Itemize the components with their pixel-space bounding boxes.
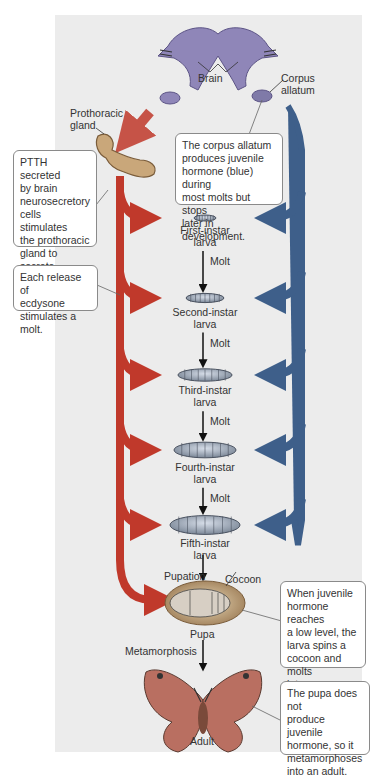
molt-label: Molt	[210, 492, 230, 504]
corpus-allatum-label-line: allatum	[281, 84, 315, 96]
ecdysone-bar	[120, 176, 152, 600]
stage-sub: larva	[150, 396, 260, 408]
metamorphosis-label: Metamorphosis	[125, 645, 197, 657]
callout-line: PTTH secreted	[20, 156, 90, 182]
callout-low-jh: When juvenile hormone reaches a low leve…	[280, 581, 366, 668]
callout-ptth: PTTH secreted by brain neurosecretory ce…	[13, 150, 97, 247]
adult-label: Adult	[190, 735, 214, 747]
corpus-allatum-label-line: Corpus	[281, 72, 315, 84]
ptth-arrow	[128, 112, 150, 138]
prothoracic-gland	[96, 134, 155, 177]
pupa-label: Pupa	[190, 628, 215, 640]
callout-line: hormone reaches	[287, 600, 359, 626]
stage-sub: larva	[150, 549, 260, 561]
stage-name: Third-instar	[150, 384, 260, 396]
prothoracic-gland-label: Prothoracic gland	[70, 107, 123, 131]
stage-sub: larva	[150, 318, 260, 330]
callout-line: stimulates a molt.	[20, 310, 91, 336]
callout-line: cells stimulates	[20, 208, 90, 234]
stage-label-3: Third-instarlarva	[150, 384, 260, 408]
callout-line: The pupa does not	[287, 687, 363, 713]
callout-line: produces juvenile	[182, 152, 276, 165]
callout-line: Each release of	[20, 271, 91, 297]
callout-line: by brain	[20, 182, 90, 195]
callout-line: ecdysone	[20, 297, 91, 310]
callout-line: most molts but stops	[182, 191, 276, 217]
molt-label: Molt	[210, 255, 230, 267]
stage-name: Second-instar	[150, 306, 260, 318]
molt-label: Molt	[210, 337, 230, 349]
callout-line: larva spins a	[287, 639, 359, 652]
callout-line: hormone, so it	[287, 739, 363, 752]
stage-label-4: Fourth-instarlarva	[150, 461, 260, 485]
stage-sub: larva	[150, 473, 260, 485]
callout-line: neurosecretory	[20, 195, 90, 208]
callout-line: into an adult.	[287, 765, 363, 778]
juvenile-hormone-bar	[288, 106, 302, 545]
stage-label-5: Fifth-instarlarva	[150, 537, 260, 561]
cocoon-label: Cocoon	[225, 573, 261, 585]
callout-line: cocoon and molts	[287, 652, 359, 678]
brain-illustration	[158, 28, 283, 104]
callout-ecdysone-release: Each release of ecdysone stimulates a mo…	[13, 265, 98, 311]
brain-label: Brain	[198, 72, 223, 84]
callout-corpus-allatum: The corpus allatum produces juvenile hor…	[175, 133, 283, 205]
callout-line: produce juvenile	[287, 713, 363, 739]
prothoracic-gland-label-line: Prothoracic	[70, 107, 123, 119]
adult-moth-illustration	[144, 670, 296, 752]
callout-line: The corpus allatum	[182, 139, 276, 152]
callout-line: the prothoracic	[20, 234, 90, 247]
callout-no-jh: The pupa does not produce juvenile hormo…	[280, 681, 370, 755]
stage-label-2: Second-instarlarva	[150, 306, 260, 330]
callout-line: later in development.	[182, 217, 276, 243]
callout-line: When juvenile	[287, 587, 359, 600]
stage-name: Fifth-instar	[150, 537, 260, 549]
callout-line: metamorphoses	[287, 752, 363, 765]
pupation-label: Pupation	[164, 570, 205, 582]
stage-name: Fourth-instar	[150, 461, 260, 473]
callout-line: a low level, the	[287, 626, 359, 639]
corpus-allatum-label: Corpus allatum	[281, 72, 315, 96]
callout-line: hormone (blue) during	[182, 165, 276, 191]
molt-label: Molt	[210, 415, 230, 427]
prothoracic-gland-label-line: gland	[70, 119, 123, 131]
